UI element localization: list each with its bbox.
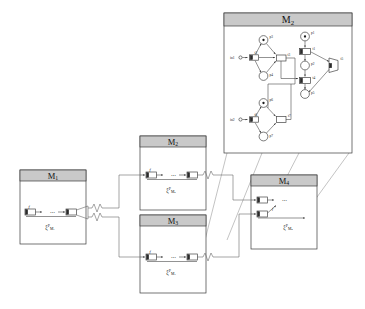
- transition-t3-label: t3: [288, 53, 291, 57]
- place-p1-label: p1: [311, 31, 315, 35]
- place-p3-label: p3: [270, 35, 274, 39]
- place-p4-label: p4: [270, 73, 274, 77]
- module-M1-ellipsis: ⋯: [50, 210, 55, 215]
- module-M1: M1 f ⋯ ξPM1: [20, 170, 88, 244]
- input-in1-label: in1: [230, 56, 235, 60]
- transition-t1-label: t1: [313, 47, 316, 51]
- place-p7-label: p7: [270, 134, 274, 138]
- module-M3-ellipsis: ⋯: [171, 255, 176, 260]
- module-M3: M3 f ⋯ ξPM3: [140, 215, 206, 293]
- diagram-canvas: M2 in1 t2 p3: [0, 0, 365, 309]
- module-M4-ellipsis: ⋯: [282, 198, 287, 203]
- place-p5-label: p5: [311, 91, 315, 95]
- transition-t4-label: t4: [313, 76, 316, 80]
- module-M2: M2 f ⋯ ξPM2: [140, 136, 206, 210]
- module-M2-ellipsis: ⋯: [171, 173, 176, 178]
- module-M4: M4 ⋯ f ξPM4: [251, 175, 317, 249]
- input-in2-label: in2: [230, 118, 235, 122]
- place-p6-label: p6: [270, 98, 274, 102]
- place-p2-label: p2: [311, 62, 315, 66]
- expanded-module-M2: M2: [224, 13, 352, 153]
- transition-t5-label: t5: [341, 57, 344, 61]
- transition-t7-label: t7: [288, 114, 291, 118]
